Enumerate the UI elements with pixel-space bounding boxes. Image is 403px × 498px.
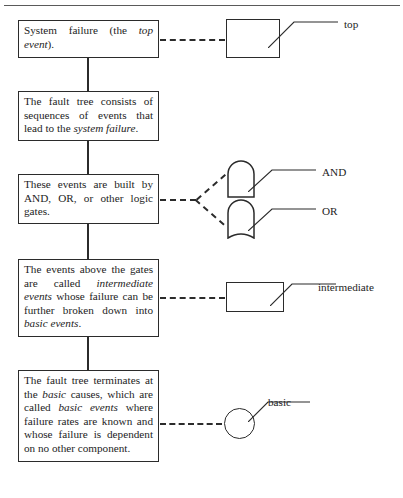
- figure-canvas: System failure (the top event). The faul…: [0, 0, 403, 498]
- dashed-fork-arm-and: [196, 174, 226, 200]
- text-box-intermediate-events-content: The events above the gates are called in…: [24, 263, 153, 329]
- symbol-label-and: AND: [322, 166, 346, 178]
- symbol-label-intermediate: intermediate: [318, 281, 374, 293]
- text-box-basic-events-content: The fault tree terminates at the basic c…: [24, 374, 153, 454]
- dashed-link-basic-symbol: [160, 423, 222, 425]
- dashed-link-top-symbol: [160, 39, 225, 41]
- dashed-link-gate-symbols: [160, 199, 196, 201]
- text-box-fault-tree-consists-content: The fault tree consists of sequences of …: [24, 95, 153, 134]
- leader-line-and: [248, 166, 316, 192]
- text-box-top-event: System failure (the top event).: [18, 20, 159, 58]
- dashed-fork-arm-or: [195, 199, 225, 225]
- symbol-label-or: OR: [322, 205, 338, 217]
- connector-top-to-consists: [87, 58, 89, 91]
- symbol-label-basic: basic: [268, 396, 291, 408]
- dashed-link-intermediate-symbol: [160, 297, 225, 299]
- leader-line-top: [268, 18, 338, 48]
- text-box-intermediate-events: The events above the gates are called in…: [18, 259, 159, 337]
- figure-caption: [30, 484, 380, 495]
- connector-gates-to-intermediate: [87, 224, 89, 259]
- connector-consists-to-gates: [87, 141, 89, 174]
- top-horizontal-rule: [4, 5, 400, 6]
- leader-line-or: [248, 205, 316, 231]
- connector-intermediate-to-basic: [87, 337, 89, 370]
- text-box-basic-events: The fault tree terminates at the basic c…: [18, 370, 159, 462]
- symbol-label-top: top: [344, 18, 358, 30]
- text-box-logic-gates: These events are built by AND, OR, or ot…: [18, 174, 159, 224]
- text-box-fault-tree-consists: The fault tree consists of sequences of …: [18, 91, 159, 141]
- text-box-top-event-content: System failure (the top event).: [24, 24, 153, 50]
- text-box-logic-gates-content: These events are built by AND, OR, or ot…: [24, 178, 153, 217]
